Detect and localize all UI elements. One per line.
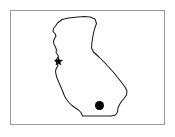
circle-marker-shape (95, 101, 104, 110)
california-state-outline (53, 17, 127, 117)
circle-marker-icon[interactable] (95, 101, 104, 110)
map-canvas (0, 0, 175, 137)
california-map-figure: California Outline map of the state of C… (0, 0, 175, 137)
